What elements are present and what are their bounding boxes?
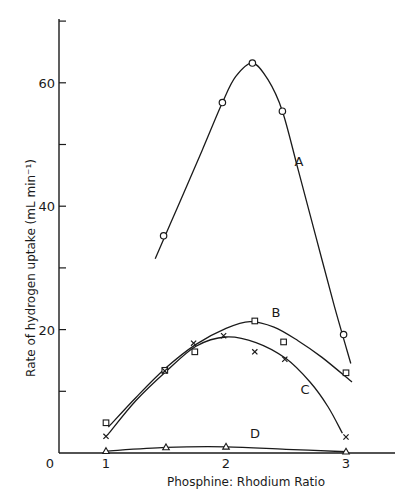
y-axis-title: Rate of hydrogen uptake (mL min⁻¹) (24, 159, 38, 377)
square-marker (343, 370, 349, 376)
curve-label-a: A (294, 154, 303, 169)
y-tick-label: 60 (38, 76, 55, 91)
y-tick-label: 20 (38, 323, 55, 338)
circle-marker (160, 233, 166, 239)
x-tick-label: 3 (342, 456, 350, 471)
circle-marker (279, 108, 285, 114)
curve-labels: ABCD (250, 154, 309, 441)
cross-marker (103, 434, 108, 439)
cross-marker (191, 341, 196, 346)
square-marker (281, 339, 287, 345)
curve-label-d: D (250, 426, 260, 441)
circle-marker (219, 99, 225, 105)
axes: 204060123 (38, 19, 395, 471)
square-marker (252, 318, 258, 324)
x-axis-title: Phosphine: Rhodium Ratio (167, 475, 325, 489)
curves (106, 63, 352, 452)
square-marker (103, 420, 109, 426)
origin-label: 0 (46, 456, 54, 471)
curve-label-c: C (300, 382, 309, 397)
x-tick-label: 2 (222, 456, 230, 471)
circle-marker (249, 60, 255, 66)
curve-label-b: B (272, 305, 281, 320)
cross-marker (252, 349, 257, 354)
rate-vs-ratio-chart: 204060123 ABCD Phosphine: Rhodium Ratio … (0, 0, 407, 498)
x-tick-label: 1 (102, 456, 110, 471)
square-marker (192, 349, 198, 355)
cross-marker (343, 434, 348, 439)
data-markers (103, 60, 350, 454)
y-tick-label: 40 (38, 199, 55, 214)
circle-marker (340, 331, 346, 337)
